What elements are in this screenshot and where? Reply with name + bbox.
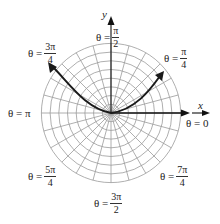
numerator: 7π	[176, 165, 188, 177]
x-axis-arrow-icon	[181, 110, 190, 117]
angle-label-0: θ = 0	[186, 118, 208, 129]
numerator: 3π	[110, 192, 122, 204]
label-prefix: θ =	[28, 171, 42, 182]
numerator: π	[180, 47, 187, 59]
x-axis-label: x	[198, 99, 203, 111]
numerator: π	[112, 26, 119, 38]
fraction: 7π4	[176, 165, 188, 188]
fraction: 3π2	[110, 192, 122, 215]
denominator: 4	[48, 54, 53, 65]
fraction: π4	[180, 47, 187, 70]
angle-label-3pi-2: θ = 3π2	[94, 192, 122, 215]
angle-label-7pi-4: θ = 7π4	[160, 165, 188, 188]
fraction: 3π4	[44, 42, 56, 65]
angle-label-pi-4: θ = π4	[164, 47, 187, 70]
label-prefix: θ =	[28, 48, 42, 59]
y-axis-label: y	[102, 8, 107, 20]
denominator: 4	[180, 177, 185, 188]
fraction: π2	[112, 26, 119, 49]
denominator: 2	[114, 204, 119, 215]
angle-label-3pi-4: θ = 3π4	[28, 42, 56, 65]
denominator: 4	[48, 177, 53, 188]
label-prefix: θ =	[164, 53, 178, 64]
y-axis-arrow-icon	[108, 16, 115, 25]
numerator: 5π	[44, 165, 56, 177]
angle-label-5pi-4: θ = 5π4	[28, 165, 56, 188]
label-prefix: θ =	[160, 171, 174, 182]
denominator: 2	[113, 38, 118, 49]
label-prefix: θ =	[94, 198, 108, 209]
denominator: 4	[181, 59, 186, 70]
label-prefix: θ = 0	[186, 118, 208, 129]
theta-zero-arrow-icon	[202, 110, 210, 116]
label-prefix: θ =	[96, 32, 110, 43]
fraction: 5π4	[44, 165, 56, 188]
numerator: 3π	[44, 42, 56, 54]
angle-label-pi: θ = π	[8, 108, 31, 119]
label-prefix: θ = π	[8, 108, 31, 119]
angle-label-pi-2: θ = π2	[96, 26, 119, 49]
